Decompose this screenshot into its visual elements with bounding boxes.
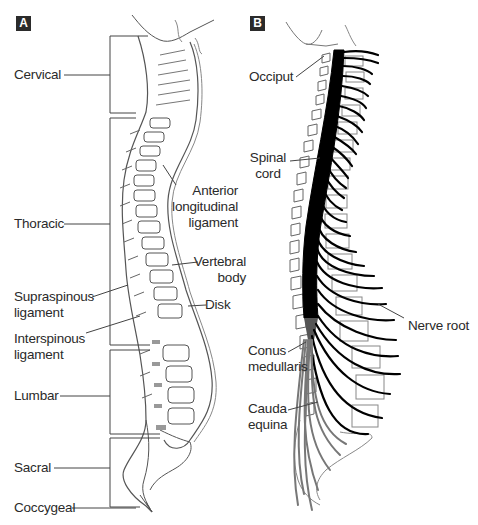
label-line: Cauda — [248, 401, 287, 417]
label-cauda-equina: Cauda equina — [248, 401, 287, 433]
panel-a-tag: A — [16, 16, 31, 31]
label-line: Supraspinous — [14, 289, 94, 305]
label-line: Spinal — [248, 150, 288, 166]
label-vertebral-body: Vertebral body — [188, 254, 246, 286]
label-anterior-longitudinal-ligament: Anterior longitudinal ligament — [162, 183, 238, 231]
label-conus-medullaris: Conus medullaris — [248, 343, 308, 375]
posterior-border — [122, 36, 152, 512]
region-brackets — [54, 36, 206, 508]
label-spinal-cord: Spinal cord — [248, 150, 288, 182]
label-line: equina — [248, 417, 287, 433]
label-interspinous-ligament: Interspinous ligament — [14, 331, 85, 363]
label-cervical: Cervical — [14, 67, 61, 83]
label-line: cord — [248, 166, 288, 182]
label-line: Disk — [205, 297, 230, 313]
label-thoracic: Thoracic — [14, 216, 64, 232]
nerve-roots — [310, 51, 400, 434]
label-lumbar: Lumbar — [14, 388, 59, 404]
label-supraspinous-ligament: Supraspinous ligament — [14, 289, 94, 321]
label-line: medullaris — [248, 359, 308, 375]
panel-b-artwork — [286, 22, 400, 510]
label-line: ligament — [14, 305, 94, 321]
panel-b-tag: B — [250, 16, 265, 31]
label-coccygeal: Coccygeal — [14, 500, 75, 516]
label-line: Interspinous — [14, 331, 85, 347]
label-line: Vertebral — [188, 254, 246, 270]
label-line: longitudinal — [162, 199, 238, 215]
label-sacral: Sacral — [14, 460, 51, 476]
label-line: body — [188, 270, 246, 286]
spinal-cord — [303, 50, 344, 318]
label-line: ligament — [14, 347, 85, 363]
label-nerve-root: Nerve root — [408, 318, 469, 334]
label-line: Occiput — [249, 69, 293, 85]
label-disk: Disk — [205, 297, 230, 313]
label-line: ligament — [162, 215, 238, 231]
label-occiput: Occiput — [249, 69, 293, 85]
label-line: Nerve root — [408, 318, 469, 334]
label-line: Anterior — [162, 183, 238, 199]
label-line: Conus — [248, 343, 308, 359]
